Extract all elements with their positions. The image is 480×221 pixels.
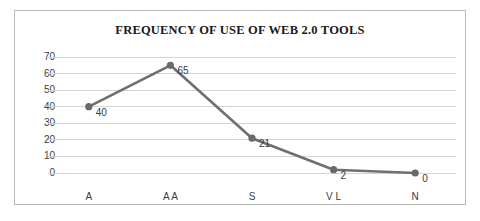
data-point-label: 65	[177, 66, 188, 76]
data-point-label: 40	[96, 108, 107, 118]
x-axis-tick-label: A	[85, 191, 92, 203]
data-point-marker	[412, 169, 419, 176]
data-point-marker	[330, 166, 337, 173]
chart-title: FREQUENCY OF USE OF WEB 2.0 TOOLS	[15, 23, 465, 38]
data-point-label: 2	[341, 171, 347, 181]
data-point-marker	[85, 103, 92, 110]
x-axis-tick-label: A A	[163, 191, 178, 203]
x-axis-tick-labels: AA ASV LN	[48, 191, 456, 207]
x-axis-tick-label: S	[249, 191, 256, 203]
series-line	[89, 65, 415, 173]
chart-frame: FREQUENCY OF USE OF WEB 2.0 TOOLS 010203…	[14, 10, 466, 205]
data-point-marker	[167, 62, 174, 69]
plot-area: 40652120	[48, 57, 456, 173]
data-point-marker	[248, 135, 255, 142]
x-axis-tick-label: N	[412, 191, 419, 203]
data-point-label: 21	[259, 139, 270, 149]
line-series	[48, 57, 456, 173]
data-point-label: 0	[422, 174, 428, 184]
x-axis-tick-label: V L	[326, 191, 341, 203]
